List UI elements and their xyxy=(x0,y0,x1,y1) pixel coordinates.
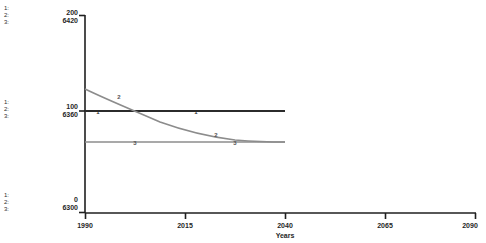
series-2-marker-a: 2 xyxy=(117,94,121,100)
plot-area: 1 1 2 2 3 3 xyxy=(0,0,486,243)
series-2-curve xyxy=(85,89,285,142)
chart-container: 1: 2: 3: 1: 2: 3: 1: 2: 3: 200 6420 xyxy=(0,0,486,243)
